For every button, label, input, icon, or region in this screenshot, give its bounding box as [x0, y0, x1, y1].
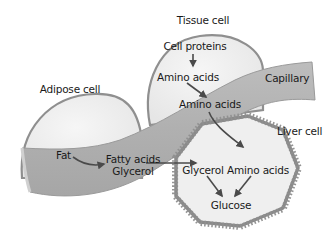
fatty-acids-label: Fatty acids: [106, 154, 160, 165]
tissue-cell-label: Tissue cell: [177, 15, 229, 26]
liver-amino-acids-label: Amino acids: [227, 165, 289, 176]
liver-cell-label: Liver cell: [277, 126, 322, 137]
tissue-amino-acids-label: Amino acids: [157, 72, 219, 83]
glucose-label: Glucose: [211, 200, 251, 211]
diagram-canvas: [0, 0, 335, 244]
liver-glycerol-label: Glycerol: [182, 165, 223, 176]
capillary-amino-acids-label: Amino acids: [179, 99, 241, 110]
fat-label: Fat: [56, 150, 71, 161]
adipose-cell-label: Adipose cell: [40, 84, 101, 95]
metabolism-diagram: Tissue cell Cell proteins Amino acids Ad…: [0, 0, 335, 244]
cell-proteins-label: Cell proteins: [163, 41, 226, 52]
capillary-label: Capillary: [265, 73, 309, 84]
capillary-glycerol-label: Glycerol: [112, 166, 153, 177]
